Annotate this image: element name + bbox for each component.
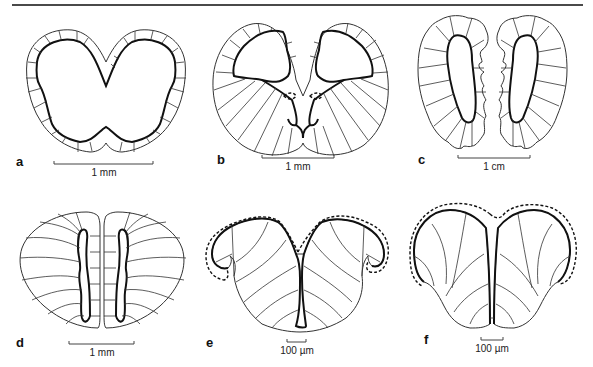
panel-d-drawing	[20, 212, 186, 328]
figure-drawings	[0, 0, 593, 367]
scale-bar-b	[262, 155, 334, 158]
scale-bar-d	[69, 341, 134, 344]
panel-label-d: d	[16, 336, 24, 349]
scale-label-b: 1 mm	[286, 162, 311, 172]
scale-label-c: 1 cm	[483, 162, 505, 172]
panel-label-e: e	[206, 336, 213, 349]
panel-label-a: a	[16, 155, 23, 168]
panel-e-drawing	[206, 216, 388, 332]
panel-c-drawing	[418, 16, 567, 149]
scale-bar-f	[481, 337, 503, 340]
panel-label-f: f	[424, 333, 428, 346]
panel-f-drawing	[410, 203, 576, 328]
scale-label-a: 1 mm	[92, 168, 117, 178]
scale-label-e: 100 µm	[280, 346, 314, 356]
panel-label-b: b	[217, 153, 225, 166]
panel-a-drawing	[26, 30, 186, 152]
panel-label-c: c	[418, 153, 425, 166]
scale-bar-c	[458, 155, 530, 158]
scale-bar-a	[54, 161, 153, 164]
panel-b-drawing	[213, 23, 388, 156]
scale-label-d: 1 mm	[90, 348, 115, 358]
scale-label-f: 100 µm	[475, 344, 509, 354]
scale-bar-e	[287, 339, 306, 342]
